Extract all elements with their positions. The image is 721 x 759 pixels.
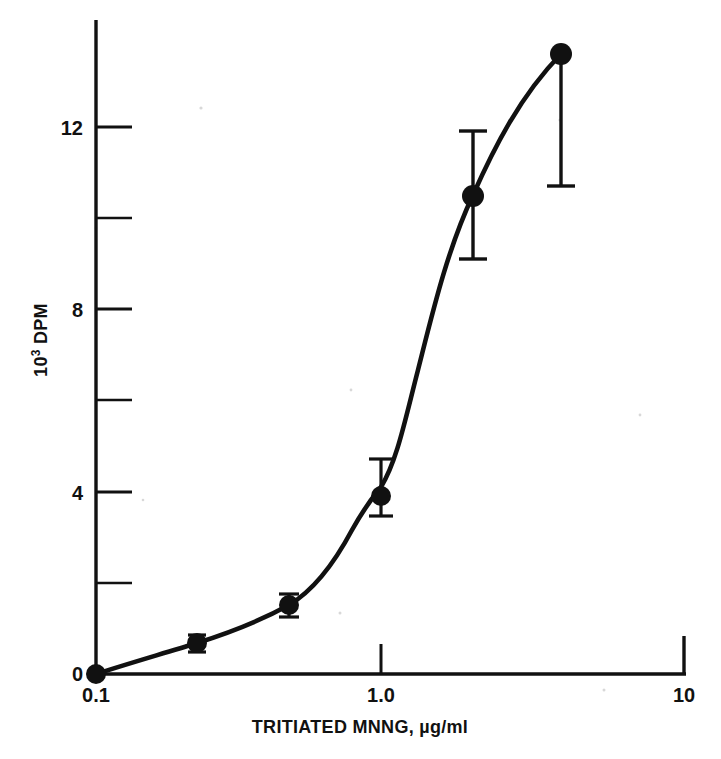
data-point-0.1 (86, 664, 106, 684)
plot-background (0, 0, 721, 759)
y-tick-label-8: 8 (72, 299, 83, 321)
x-tick-label-0.1: 0.1 (82, 684, 110, 706)
data-point-4.3 (550, 43, 572, 65)
y-tick-label-4: 4 (72, 482, 84, 504)
dose-response-plot: 12 8 4 0 0.1 1.0 10 TRITIATED MNNG, µg/m… (0, 0, 721, 759)
y-tick-label-0: 0 (72, 663, 83, 685)
data-point-0.25 (187, 633, 207, 653)
data-point-2.0 (462, 185, 484, 207)
x-axis-title: TRITIATED MNNG, µg/ml (252, 717, 468, 737)
chart-figure: 12 8 4 0 0.1 1.0 10 TRITIATED MNNG, µg/m… (0, 0, 721, 759)
svg-text:103 DPM: 103 DPM (29, 303, 51, 377)
y-tick-label-12: 12 (61, 117, 83, 139)
x-tick-label-1.0: 1.0 (367, 684, 395, 706)
y-axis-title-unit: DPM (31, 303, 51, 344)
y-axis-title-base: 10 (31, 356, 51, 377)
y-axis-title-exponent: 3 (29, 349, 43, 356)
x-tick-label-10: 10 (673, 684, 695, 706)
data-point-0.5 (279, 595, 299, 615)
y-axis-title: 103 DPM (29, 303, 51, 377)
data-point-1.0 (371, 486, 391, 506)
